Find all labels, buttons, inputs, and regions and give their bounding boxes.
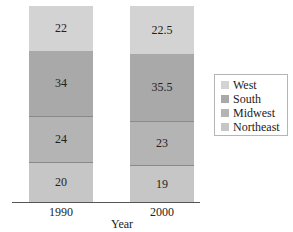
segment-northeast-2000: 19 (130, 165, 194, 202)
legend-label-west: West (233, 78, 257, 93)
segment-northeast-1990: 20 (29, 162, 93, 202)
segment-midwest-1990: 24 (29, 116, 93, 162)
segment-west-2000: 22.5 (130, 6, 194, 54)
legend-item-midwest: Midwest (221, 106, 287, 120)
x-axis-line (12, 202, 200, 203)
label-northeast-1990: 20 (55, 175, 67, 190)
legend-swatch-south (221, 95, 229, 103)
segment-south-1990: 34 (29, 51, 93, 116)
segment-south-2000: 35.5 (130, 54, 194, 121)
legend-label-northeast: Northeast (233, 120, 280, 135)
legend: West South Midwest Northeast (214, 74, 288, 136)
x-tick-1990: 1990 (29, 205, 93, 220)
label-northeast-2000: 19 (156, 177, 168, 192)
legend-label-midwest: Midwest (233, 106, 275, 121)
label-south-2000: 35.5 (152, 80, 173, 95)
legend-item-south: South (221, 92, 287, 106)
legend-label-south: South (233, 92, 261, 107)
x-axis-label: Year (92, 217, 152, 232)
bar-2000: 22.5 35.5 23 19 (130, 6, 194, 202)
segment-west-1990: 22 (29, 6, 93, 51)
legend-item-northeast: Northeast (221, 120, 287, 134)
label-west-2000: 22.5 (152, 23, 173, 38)
bar-1990: 22 34 24 20 (29, 6, 93, 202)
legend-swatch-northeast (221, 123, 229, 131)
segment-midwest-2000: 23 (130, 121, 194, 165)
legend-swatch-west (221, 81, 229, 89)
label-midwest-2000: 23 (156, 136, 168, 151)
legend-item-west: West (221, 78, 287, 92)
label-south-1990: 34 (55, 76, 67, 91)
label-midwest-1990: 24 (55, 132, 67, 147)
label-west-1990: 22 (55, 21, 67, 36)
legend-swatch-midwest (221, 109, 229, 117)
